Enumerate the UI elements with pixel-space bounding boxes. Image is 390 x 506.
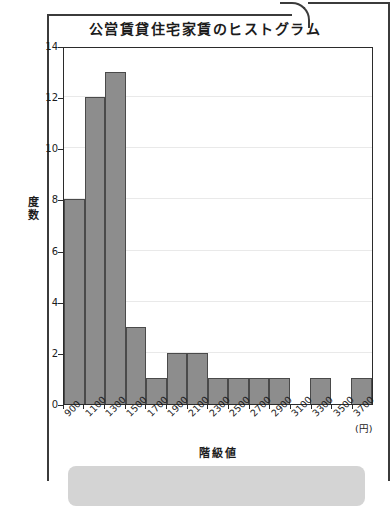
bar-slot xyxy=(208,48,229,404)
x-axis-tick: 1500 xyxy=(125,405,146,447)
bar-slot xyxy=(85,48,106,404)
bar-slot xyxy=(167,48,188,404)
y-axis-tick-label: 6 xyxy=(30,246,58,257)
bar-slot xyxy=(126,48,147,404)
x-axis-tick: 2700 xyxy=(249,405,270,447)
x-axis-label: 階級値 xyxy=(63,444,373,460)
bar-slot xyxy=(290,48,311,404)
bar-slot xyxy=(187,48,208,404)
y-axis-tick-label: 8 xyxy=(30,194,58,205)
y-axis-tick-label: 0 xyxy=(30,399,58,410)
x-axis-tick: 900 xyxy=(63,405,84,447)
x-axis-tick: 3500 xyxy=(332,405,353,447)
x-axis-tick: 2300 xyxy=(208,405,229,447)
bar-slot xyxy=(249,48,270,404)
bar-slot xyxy=(64,48,85,404)
x-axis-tick: 2500 xyxy=(228,405,249,447)
histogram-bar xyxy=(64,199,85,404)
bottom-panel xyxy=(68,466,365,506)
x-axis-tick: 1900 xyxy=(166,405,187,447)
x-axis-tick: 1700 xyxy=(146,405,167,447)
x-axis-tick: 3300 xyxy=(311,405,332,447)
x-axis-tick: 2100 xyxy=(187,405,208,447)
bar-slot xyxy=(228,48,249,404)
bar-slot xyxy=(331,48,352,404)
bar-slot xyxy=(351,48,372,404)
bar-slot xyxy=(146,48,167,404)
bar-slot xyxy=(269,48,290,404)
x-axis-unit: (円) xyxy=(355,421,372,435)
y-axis-tick-label: 4 xyxy=(30,297,58,308)
bar-slot xyxy=(310,48,331,404)
x-axis-ticks: 9001100130015001700190021002300250027002… xyxy=(63,405,373,447)
histogram-bar xyxy=(85,97,106,404)
y-axis-tick-label: 14 xyxy=(30,41,58,52)
bar-slot xyxy=(105,48,126,404)
x-axis-tick: 2900 xyxy=(270,405,291,447)
x-axis-tick: 3100 xyxy=(290,405,311,447)
histogram-bar xyxy=(105,72,126,404)
histogram-bar xyxy=(126,327,147,404)
x-axis-tick: 1100 xyxy=(84,405,105,447)
plot-area xyxy=(63,47,373,405)
y-axis-tick-label: 2 xyxy=(30,348,58,359)
y-axis-tick-label: 10 xyxy=(30,143,58,154)
bar-series xyxy=(64,48,372,404)
x-axis-tick: 1300 xyxy=(104,405,125,447)
y-axis-tick-label: 12 xyxy=(30,92,58,103)
